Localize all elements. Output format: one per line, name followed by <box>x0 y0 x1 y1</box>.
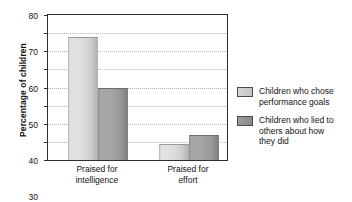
gridline <box>48 33 227 34</box>
bar-lied-group-2 <box>189 135 219 160</box>
plot-inner: 01020304050607080 <box>48 15 227 160</box>
y-axis-tick-label: 30 <box>29 193 38 202</box>
legend-label-line: they did <box>259 136 334 147</box>
bar-performance-goals-group-1 <box>68 37 98 160</box>
y-axis-tick: 50 <box>44 69 48 70</box>
y-axis-title: Percentage of children <box>18 20 28 160</box>
bar-lied-group-1 <box>98 88 128 161</box>
plot-area: 01020304050607080 <box>47 14 228 161</box>
legend-swatch-performance-goals <box>237 87 253 97</box>
y-axis-tick-label: 70 <box>29 48 38 57</box>
y-axis-tick-label: 60 <box>29 85 38 94</box>
y-axis-tick: 40 <box>44 88 48 89</box>
x-axis-category-label-line: intelligence <box>47 175 147 186</box>
y-axis-tick-label: 50 <box>29 121 38 130</box>
y-axis-tick: 20 <box>44 124 48 125</box>
y-axis-tick: 10 <box>44 142 48 143</box>
bar-chart-figure: Percentage of children 01020304050607080… <box>0 0 352 202</box>
y-axis-tick-label: 80 <box>29 12 38 21</box>
legend-entry-1: Children who choseperformance goals <box>237 86 352 107</box>
chart-legend: Children who choseperformance goalsChild… <box>237 86 352 155</box>
x-axis-category-label: Praised foreffort <box>138 164 238 186</box>
legend-label: Children who choseperformance goals <box>259 86 334 107</box>
legend-label-line: Children who lied to <box>259 115 334 126</box>
x-axis-category-label-line: Praised for <box>47 164 147 175</box>
x-axis-category-label-line: Praised for <box>138 164 238 175</box>
y-axis-tick: 30 <box>44 106 48 107</box>
x-axis-category-label-line: effort <box>138 175 238 186</box>
legend-label-line: performance goals <box>259 97 334 108</box>
bar-performance-goals-group-2 <box>159 144 189 160</box>
x-axis-category-label: Praised forintelligence <box>47 164 147 186</box>
y-axis-tick: 70 <box>44 33 48 34</box>
y-axis-tick: 0 <box>44 160 48 161</box>
legend-swatch-lied <box>237 116 253 126</box>
y-axis-tick: 80 <box>44 15 48 16</box>
legend-label: Children who lied toothers about howthey… <box>259 115 334 147</box>
legend-entry-2: Children who lied toothers about howthey… <box>237 115 352 147</box>
y-axis-tick-label: 40 <box>29 157 38 166</box>
legend-label-line: others about how <box>259 126 334 137</box>
legend-label-line: Children who chose <box>259 86 334 97</box>
y-axis-tick: 60 <box>44 51 48 52</box>
